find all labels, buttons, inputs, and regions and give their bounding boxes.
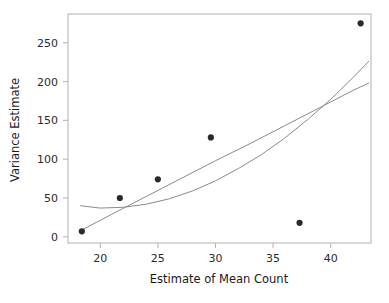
x-axis-title: Estimate of Mean Count: [150, 272, 289, 286]
data-point: [296, 220, 302, 226]
x-tick-label: 20: [93, 252, 107, 265]
scatter-plot: 2025303540 050100150200250 Estimate of M…: [0, 0, 389, 303]
x-tick-label: 30: [208, 252, 222, 265]
chart-canvas: 2025303540 050100150200250 Estimate of M…: [0, 0, 389, 303]
y-tick-label: 200: [37, 76, 58, 89]
x-tick-label: 35: [266, 252, 280, 265]
data-point: [155, 176, 161, 182]
data-point: [358, 20, 364, 26]
x-tick-label: 25: [151, 252, 165, 265]
y-tick-label: 50: [44, 192, 58, 205]
data-point: [79, 228, 85, 234]
x-tick-label: 40: [324, 252, 338, 265]
y-axis-title: Variance Estimate: [8, 78, 22, 182]
y-tick-label: 100: [37, 153, 58, 166]
y-tick-label: 150: [37, 114, 58, 127]
data-point: [117, 195, 123, 201]
data-point: [208, 134, 214, 140]
y-tick-label: 0: [51, 231, 58, 244]
y-tick-label: 250: [37, 37, 58, 50]
